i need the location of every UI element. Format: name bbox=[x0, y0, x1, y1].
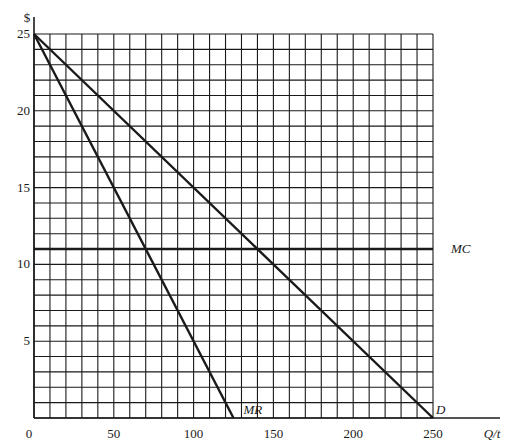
series-label-mc: MC bbox=[450, 241, 471, 256]
series-d bbox=[34, 34, 433, 418]
x-tick-label: 200 bbox=[343, 426, 363, 441]
axes bbox=[34, 17, 500, 418]
x-tick-label: 150 bbox=[264, 426, 284, 441]
y-tick-label: 5 bbox=[24, 333, 31, 348]
series-label-d: D bbox=[435, 402, 446, 417]
x-axis-label: Q/t bbox=[484, 426, 501, 441]
x-tick-label: 50 bbox=[107, 426, 120, 441]
x-tick-label: 100 bbox=[184, 426, 204, 441]
economics-chart: 510152025501001502002500$Q/tMRDMC bbox=[0, 0, 520, 447]
y-tick-label: 20 bbox=[17, 103, 30, 118]
origin-label: 0 bbox=[26, 426, 33, 441]
series-label-mr: MR bbox=[243, 402, 263, 417]
series-mr bbox=[34, 34, 234, 418]
y-tick-label: 15 bbox=[17, 180, 30, 195]
series-lines bbox=[34, 34, 433, 418]
x-tick-label: 250 bbox=[423, 426, 443, 441]
y-axis-label: $ bbox=[24, 10, 31, 25]
labels: 510152025501001502002500$Q/tMRDMC bbox=[17, 10, 501, 441]
y-tick-label: 25 bbox=[17, 26, 30, 41]
y-tick-label: 10 bbox=[17, 256, 30, 271]
